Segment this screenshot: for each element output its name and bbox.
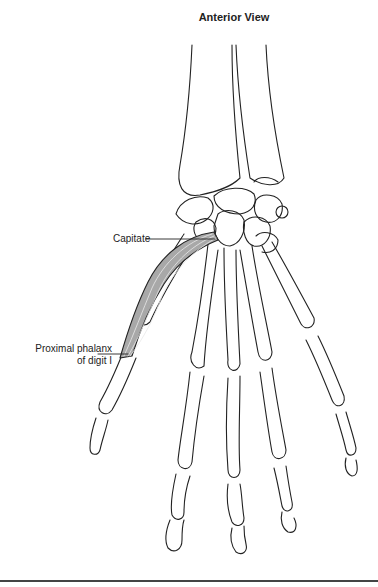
label-capitate: Capitate: [113, 233, 150, 245]
forearm-bones: [179, 45, 284, 195]
muscle-belly: [120, 232, 218, 358]
label-proximal-phalanx: Proximal phalanx of digit I: [18, 343, 112, 367]
label-proximal-phalanx-line1: Proximal phalanx: [18, 343, 112, 355]
digit-5: [262, 242, 357, 476]
hand-skeleton-diagram: [0, 0, 378, 587]
footer-rule: [0, 580, 378, 582]
digit-4: [240, 246, 296, 532]
digit-3: [224, 248, 246, 554]
digit-2: [166, 244, 218, 551]
label-proximal-phalanx-line2: of digit I: [18, 355, 112, 367]
